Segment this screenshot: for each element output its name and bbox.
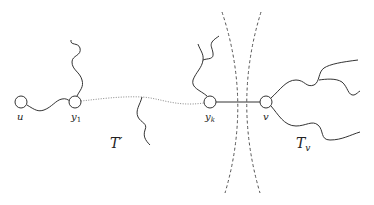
branch-v-upper-fork	[319, 79, 360, 95]
label-u: u	[17, 111, 23, 122]
node-u	[15, 96, 27, 108]
node-y1	[69, 96, 81, 108]
branch-v-lower	[271, 106, 360, 140]
branch-y1-up	[71, 40, 83, 96]
node-v	[260, 96, 272, 108]
label-y1: y1	[70, 111, 81, 124]
edge-u-y1	[27, 99, 70, 111]
label-yk: yk	[204, 111, 215, 124]
node-yk	[204, 96, 216, 108]
branch-v-upper	[271, 60, 358, 98]
branch-yk-up	[193, 36, 219, 96]
branch-t-prime	[137, 97, 150, 145]
tree-diagram: u y1 yk v T′ Tv	[0, 0, 374, 205]
label-t-v: Tv	[296, 135, 310, 153]
label-v: v	[263, 111, 269, 122]
diagram-svg: u y1 yk v T′ Tv	[0, 0, 374, 205]
path-y1-yk-dotted	[81, 97, 204, 104]
label-t-prime: T′	[110, 135, 123, 151]
